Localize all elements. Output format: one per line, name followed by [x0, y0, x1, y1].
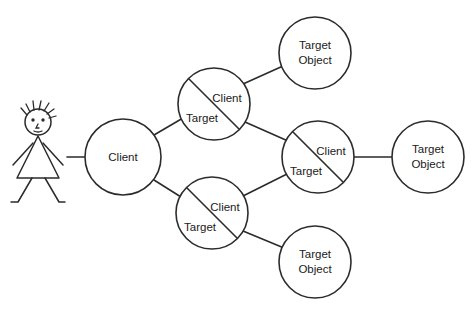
node-target-object-top-circle[interactable] — [279, 17, 351, 89]
edge-upper-split-to-target-object-top — [243, 66, 283, 84]
node-target-object-top-label-line2: Object — [298, 54, 332, 66]
actor-arms-icon — [13, 143, 63, 165]
node-target-object-right-label-line1: Target — [412, 143, 445, 155]
edge-client-to-upper-split — [154, 118, 183, 135]
object-graph-diagram: Client Client Target Client Target Clien… — [0, 0, 476, 314]
node-target-object-bottom-label-line2: Object — [298, 263, 332, 275]
actor-face-icon — [34, 124, 42, 132]
node-client-target-middle-target-label: Target — [290, 165, 323, 177]
node-client-root[interactable]: Client — [85, 119, 161, 195]
actor-legs-icon — [11, 178, 65, 202]
edge-lower-split-to-middle-split — [243, 174, 287, 196]
node-client-target-middle-client-label: Client — [316, 145, 346, 157]
node-client-target-lower[interactable]: Client Target — [176, 177, 248, 249]
node-target-object-right-label-line2: Object — [411, 158, 445, 170]
node-target-object-bottom-circle[interactable] — [279, 226, 351, 298]
actor-eye-right-icon — [41, 118, 44, 121]
node-client-target-upper-target-label: Target — [186, 112, 219, 124]
node-client-target-lower-client-label: Client — [210, 201, 240, 213]
edge-lower-split-to-target-object-bottom — [243, 231, 284, 248]
node-client-root-label: Client — [108, 151, 138, 163]
actor-body-icon — [17, 136, 59, 178]
node-target-object-bottom[interactable]: Target Object — [279, 226, 351, 298]
actor-eye-left-icon — [31, 118, 34, 121]
node-target-object-right[interactable]: Target Object — [392, 121, 464, 193]
user-actor — [11, 101, 65, 202]
node-client-target-middle[interactable]: Client Target — [282, 121, 354, 193]
node-target-object-top-label-line1: Target — [299, 39, 332, 51]
node-target-object-bottom-label-line1: Target — [299, 248, 332, 260]
node-target-object-right-circle[interactable] — [392, 121, 464, 193]
node-target-object-top[interactable]: Target Object — [279, 17, 351, 89]
edge-client-to-lower-split — [154, 180, 181, 197]
node-client-target-upper-client-label: Client — [212, 92, 242, 104]
actor-head-icon — [25, 109, 51, 135]
node-client-target-upper[interactable]: Client Target — [178, 68, 250, 140]
edge-upper-split-to-middle-split — [245, 122, 288, 141]
diagram-canvas: Client Client Target Client Target Clien… — [0, 0, 476, 314]
node-client-target-lower-target-label: Target — [184, 221, 217, 233]
